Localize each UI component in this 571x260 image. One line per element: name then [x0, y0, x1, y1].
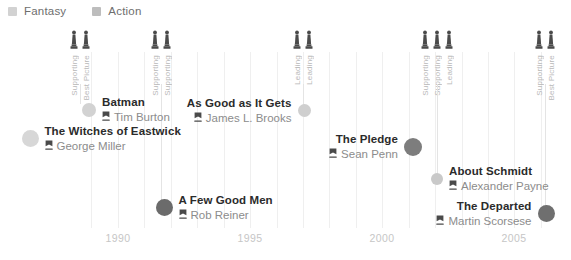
- film-text: As Good as It GetsJames L. Brooks: [187, 96, 292, 125]
- oscar-statuette-icon: [293, 30, 302, 53]
- oscar-statuette-icon: [445, 30, 454, 53]
- film-director-name: George Miller: [57, 139, 126, 154]
- award-category-label: Best Picture: [547, 55, 555, 101]
- director-chair-icon: [436, 215, 444, 225]
- oscar-statuette-icon: [305, 30, 314, 49]
- director-chair-icon: [436, 214, 444, 229]
- film-title: The Pledge: [336, 132, 398, 147]
- legend-label-fantasy: Fantasy: [24, 6, 66, 18]
- director-chair-icon: [102, 111, 110, 121]
- film-title: A Few Good Men: [179, 193, 273, 208]
- film-marker[interactable]: About SchmidtAlexander Payne: [431, 164, 549, 193]
- legend-item-fantasy[interactable]: Fantasy: [8, 6, 66, 18]
- film-marker[interactable]: BatmanTim Burton: [82, 95, 170, 124]
- film-dot[interactable]: [404, 138, 422, 156]
- legend-label-action: Action: [108, 6, 141, 18]
- film-marker[interactable]: The Witches of EastwickGeorge Miller: [22, 124, 181, 153]
- oscar-statuette-icon: [547, 30, 556, 53]
- director-chair-icon: [449, 180, 457, 190]
- award-stem: [545, 84, 546, 215]
- film-director-row: James L. Brooks: [194, 111, 292, 126]
- legend-swatch-action: [92, 7, 101, 16]
- film-dot[interactable]: [431, 173, 443, 185]
- film-director-row: Alexander Payne: [449, 179, 549, 194]
- award-marker[interactable]: Leading: [305, 30, 314, 85]
- film-marker[interactable]: A Few Good MenRob Reiner: [156, 193, 273, 222]
- award-category-label: Best Picture: [82, 55, 90, 101]
- oscar-statuette-icon: [293, 30, 302, 49]
- award-stem: [80, 84, 81, 104]
- film-text: BatmanTim Burton: [102, 95, 170, 124]
- film-director-name: Sean Penn: [341, 147, 398, 162]
- director-chair-icon: [102, 110, 110, 125]
- film-director-row: George Miller: [45, 139, 126, 154]
- gridline: [277, 52, 278, 228]
- axis-tick-label: 2005: [502, 232, 527, 244]
- award-marker[interactable]: Supporting: [163, 30, 172, 96]
- oscar-statuette-icon: [82, 30, 91, 53]
- award-category-label: Supporting: [163, 55, 171, 96]
- oscar-statuette-icon: [421, 30, 430, 53]
- oscar-statuette-icon: [433, 30, 442, 49]
- award-category-label: Supporting: [421, 55, 429, 96]
- oscar-statuette-icon: [445, 30, 454, 49]
- award-marker[interactable]: Best Picture: [82, 30, 91, 101]
- award-marker[interactable]: Leading: [445, 30, 454, 85]
- director-chair-icon: [194, 112, 202, 122]
- director-chair-icon: [45, 140, 53, 150]
- award-category-label: Leading: [305, 55, 313, 85]
- director-chair-icon: [194, 111, 202, 126]
- legend: Fantasy Action: [8, 6, 141, 18]
- axis-tick-label: 1995: [238, 232, 263, 244]
- oscar-statuette-icon: [70, 30, 79, 49]
- film-title: Batman: [102, 95, 145, 110]
- legend-item-action[interactable]: Action: [92, 6, 141, 18]
- oscar-statuette-icon: [163, 30, 172, 49]
- award-group[interactable]: LeadingLeading: [293, 30, 314, 85]
- award-marker[interactable]: Best Picture: [547, 30, 556, 101]
- award-marker[interactable]: Supporting: [421, 30, 430, 96]
- award-marker[interactable]: Leading: [293, 30, 302, 85]
- film-dot[interactable]: [22, 130, 39, 147]
- film-director-name: James L. Brooks: [206, 111, 292, 126]
- director-chair-icon: [45, 139, 53, 154]
- film-director-row: Tim Burton: [102, 110, 170, 125]
- legend-swatch-fantasy: [8, 7, 17, 16]
- film-dot[interactable]: [538, 205, 555, 222]
- film-dot[interactable]: [156, 199, 173, 216]
- film-title: The Witches of Eastwick: [45, 124, 181, 139]
- director-chair-icon: [179, 209, 187, 219]
- award-marker[interactable]: Supporting: [535, 30, 544, 96]
- oscar-statuette-icon: [421, 30, 430, 49]
- film-dot[interactable]: [298, 104, 311, 117]
- director-chair-icon: [179, 208, 187, 223]
- award-category-label: Supporting: [70, 55, 78, 96]
- oscar-statuette-icon: [535, 30, 544, 49]
- film-marker[interactable]: The DepartedMartin Scorsese: [436, 199, 554, 228]
- film-title: The Departed: [457, 199, 532, 214]
- film-director-name: Tim Burton: [114, 110, 170, 125]
- film-marker[interactable]: The PledgeSean Penn: [329, 132, 422, 161]
- oscar-statuette-icon: [547, 30, 556, 49]
- oscar-statuette-icon: [82, 30, 91, 49]
- film-director-row: Martin Scorsese: [436, 214, 531, 229]
- film-director-row: Sean Penn: [329, 147, 398, 162]
- film-text: A Few Good MenRob Reiner: [179, 193, 273, 222]
- award-marker[interactable]: Supporting: [151, 30, 160, 96]
- film-director-name: Martin Scorsese: [448, 214, 531, 229]
- award-category-label: Leading: [445, 55, 453, 85]
- oscar-statuette-icon: [305, 30, 314, 53]
- oscar-statuette-icon: [70, 30, 79, 53]
- film-marker[interactable]: As Good as It GetsJames L. Brooks: [187, 96, 311, 125]
- film-title: About Schmidt: [449, 164, 532, 179]
- film-text: The Witches of EastwickGeorge Miller: [45, 124, 181, 153]
- film-director-name: Rob Reiner: [191, 208, 249, 223]
- film-text: The DepartedMartin Scorsese: [436, 199, 531, 228]
- film-director-name: Alexander Payne: [461, 179, 549, 194]
- award-marker[interactable]: Supporting: [70, 30, 79, 96]
- oscar-statuette-icon: [535, 30, 544, 53]
- film-text: The PledgeSean Penn: [329, 132, 398, 161]
- oscar-statuette-icon: [151, 30, 160, 49]
- award-category-label: Supporting: [151, 55, 159, 96]
- film-dot[interactable]: [82, 103, 96, 117]
